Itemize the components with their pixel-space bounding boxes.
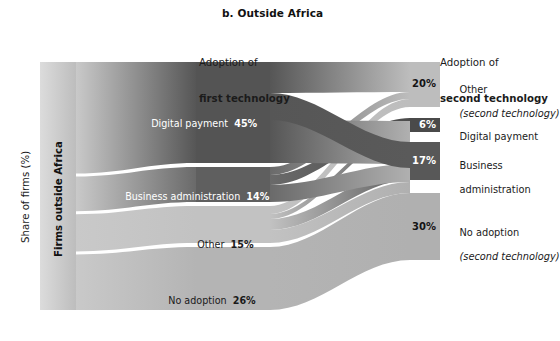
first-tech-name-business-administration: Business administration bbox=[125, 191, 240, 202]
second-tech-label-no-adoption: No adoption (second technology) bbox=[447, 215, 560, 276]
first-tech-label-digital-payment: Digital payment 45% bbox=[139, 107, 257, 141]
first-tech-label-other: Other 15% bbox=[185, 228, 254, 262]
first-tech-name-other: Other bbox=[197, 239, 224, 250]
first-tech-pct-other: 15% bbox=[231, 239, 254, 250]
first-tech-pct-digital-payment: 45% bbox=[234, 118, 257, 129]
second-tech-pct-digital-payment: 6% bbox=[406, 119, 436, 130]
column-header-first-line1: Adoption of bbox=[199, 57, 290, 69]
second-tech-pct-other: 20% bbox=[406, 78, 436, 89]
first-tech-pct-business-administration: 14% bbox=[246, 191, 269, 202]
second-tech-pct-no-adoption: 30% bbox=[406, 221, 436, 232]
source-node-label: Firms outside Africa bbox=[53, 141, 65, 257]
first-tech-name-digital-payment: Digital payment bbox=[151, 118, 228, 129]
column-header-first-line2: first technology bbox=[199, 93, 290, 105]
second-tech-name2-business-administration: administration bbox=[459, 184, 530, 195]
first-tech-name-no-adoption: No adoption bbox=[168, 295, 226, 306]
second-tech-label-business-administration: Business administration bbox=[447, 148, 531, 209]
first-tech-label-business-administration: Business administration 14% bbox=[113, 180, 269, 214]
second-tech-name-business-administration: Business bbox=[459, 160, 502, 171]
y-axis-title: Share of firms (%) bbox=[20, 151, 32, 243]
page-title: b. Outside Africa bbox=[222, 7, 323, 19]
second-tech-name-digital-payment: Digital payment bbox=[459, 131, 538, 142]
first-tech-pct-no-adoption: 26% bbox=[233, 295, 256, 306]
second-tech-sub-no-adoption: (second technology) bbox=[459, 251, 559, 262]
link-digital-payment-to-other bbox=[270, 62, 410, 93]
first-tech-label-no-adoption: No adoption 26% bbox=[156, 284, 256, 318]
second-tech-name-no-adoption: No adoption bbox=[459, 227, 519, 238]
second-tech-pct-business-administration: 17% bbox=[406, 155, 436, 166]
links-stage-1-2 bbox=[270, 62, 410, 310]
column-header-second-line1: Adoption of bbox=[440, 57, 548, 69]
second-tech-sub-other: (second technology) bbox=[459, 108, 559, 119]
second-tech-name-other: Other bbox=[459, 84, 487, 95]
